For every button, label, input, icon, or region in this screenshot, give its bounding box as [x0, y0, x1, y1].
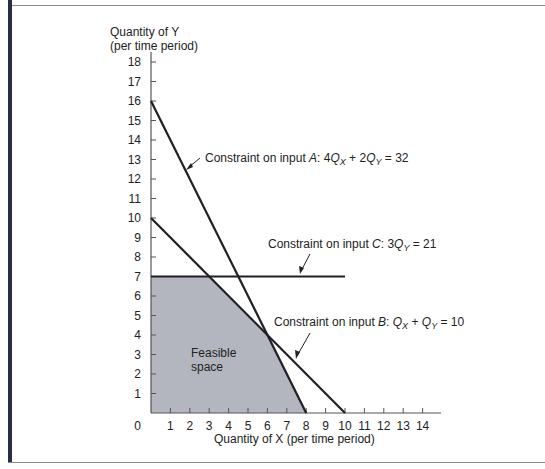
x-tick-label: 10 [338, 419, 352, 433]
y-tick-label: 5 [134, 309, 141, 323]
x-tick-label: 0 [134, 419, 141, 433]
y-tick-label: 12 [128, 172, 142, 186]
x-tick-label: 5 [245, 419, 252, 433]
annotation-c: Constraint on input C: 3QY = 21 [268, 237, 437, 253]
x-tick-label: 12 [377, 419, 391, 433]
annotation-a: Constraint on input A: 4QX + 2QY = 32 [205, 151, 409, 167]
x-tick-label: 11 [358, 419, 371, 433]
x-tick-label: 4 [225, 419, 232, 433]
y-tick-label: 1 [134, 387, 141, 401]
y-tick-label: 10 [128, 211, 142, 225]
x-tick-label: 9 [322, 419, 329, 433]
x-tick-label: 7 [283, 419, 290, 433]
feasible-label-line2: space [191, 360, 223, 374]
y-tick-label: 14 [128, 133, 142, 147]
y-tick-label: 16 [128, 94, 142, 108]
y-tick-label: 15 [128, 114, 142, 128]
y-tick-label: 17 [128, 75, 142, 89]
x-tick-label: 14 [416, 419, 430, 433]
x-tick-label: 8 [303, 419, 310, 433]
x-tick-label: 13 [397, 419, 411, 433]
y-tick-label: 7 [134, 270, 141, 284]
y-axis-label-line1: Quantity of Y [110, 25, 179, 39]
y-tick-label: 13 [128, 153, 142, 167]
y-axis-label-line2: (per time period) [110, 39, 198, 53]
x-tick-label: 1 [167, 419, 174, 433]
x-tick-label: 6 [264, 419, 271, 433]
x-axis-label: Quantity of X (per time period) [214, 432, 375, 446]
annotation-b: Constraint on input B: QX + QY = 10 [274, 315, 465, 331]
x-tick-label: 2 [186, 419, 193, 433]
y-tick-label: 9 [134, 231, 141, 245]
arrowhead-a [186, 163, 193, 170]
x-tick-label: 3 [206, 419, 213, 433]
y-tick-label: 4 [134, 328, 141, 342]
y-tick-label: 2 [134, 367, 141, 381]
y-tick-label: 8 [134, 250, 141, 264]
y-tick-label: 11 [129, 192, 142, 206]
feasible-label-line1: Feasible [191, 346, 237, 360]
y-tick-label: 3 [134, 348, 141, 362]
chart: 1234567891011121314151617180123456789101… [0, 0, 545, 469]
y-tick-label: 6 [134, 289, 141, 303]
y-tick-label: 18 [128, 55, 142, 69]
